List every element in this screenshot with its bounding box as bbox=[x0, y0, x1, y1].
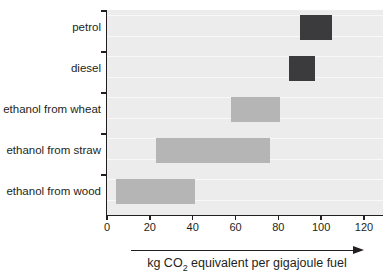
y-tick bbox=[101, 51, 106, 53]
category-label-ethanol-from-wood: ethanol from wood bbox=[2, 184, 101, 199]
x-tick-80 bbox=[278, 215, 280, 220]
x-tick-label-40: 40 bbox=[173, 221, 213, 234]
x-axis-arrow-head-icon bbox=[353, 246, 364, 254]
y-axis-line bbox=[106, 10, 108, 215]
x-axis-arrow-line bbox=[131, 250, 354, 252]
bar-ethanol-from-wheat bbox=[231, 97, 280, 122]
x-tick-label-100: 100 bbox=[301, 221, 341, 234]
x-tick-label-80: 80 bbox=[258, 221, 298, 234]
category-label-diesel: diesel bbox=[2, 61, 101, 76]
x-axis-label-post: equivalent per gigajoule fuel bbox=[188, 256, 347, 270]
x-axis-label-pre: kg CO bbox=[147, 256, 182, 270]
bar-petrol bbox=[300, 15, 332, 40]
gridline bbox=[107, 36, 383, 37]
bar-diesel bbox=[289, 56, 315, 81]
category-label-ethanol-from-straw: ethanol from straw bbox=[2, 143, 101, 158]
x-tick-20 bbox=[149, 215, 151, 220]
category-label-ethanol-from-wheat: ethanol from wheat bbox=[2, 102, 101, 117]
x-tick-100 bbox=[320, 215, 322, 220]
category-label-petrol: petrol bbox=[2, 20, 101, 35]
y-tick bbox=[101, 10, 106, 12]
gridline bbox=[107, 15, 383, 16]
x-tick-0 bbox=[106, 215, 108, 220]
y-tick bbox=[101, 174, 106, 176]
y-tick bbox=[101, 92, 106, 94]
x-axis-label: kg CO2 equivalent per gigajoule fuel bbox=[117, 256, 377, 270]
gridline bbox=[107, 77, 383, 78]
y-tick bbox=[101, 133, 106, 135]
x-tick-label-60: 60 bbox=[216, 221, 256, 234]
bar-ethanol-from-straw bbox=[156, 138, 270, 163]
x-tick-120 bbox=[363, 215, 365, 220]
x-tick-label-0: 0 bbox=[87, 221, 127, 234]
x-axis-line bbox=[106, 215, 384, 217]
x-tick-label-20: 20 bbox=[130, 221, 170, 234]
fuel-ghg-emissions-chart: petroldieselethanol from wheatethanol fr… bbox=[0, 0, 388, 278]
gridline bbox=[107, 56, 383, 57]
x-tick-60 bbox=[235, 215, 237, 220]
x-tick-label-120: 120 bbox=[344, 221, 384, 234]
bar-ethanol-from-wood bbox=[116, 179, 195, 204]
x-tick-40 bbox=[192, 215, 194, 220]
